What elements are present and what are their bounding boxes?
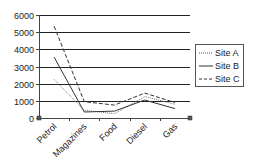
resize-handle-icon[interactable] xyxy=(37,116,41,120)
y-tick-label: 3000 xyxy=(14,63,34,73)
line-chart: 6000500040003000200010000 PetrolMagazine… xyxy=(0,0,255,168)
x-tick-label: Diesel xyxy=(124,121,149,146)
x-tick-label: Gas xyxy=(161,121,180,140)
legend-label: Site B xyxy=(215,61,239,71)
y-tick-label: 0 xyxy=(29,114,34,124)
y-tick-label: 1000 xyxy=(14,97,34,107)
resize-handle-icon[interactable] xyxy=(188,116,192,120)
y-tick-label: 6000 xyxy=(14,11,34,21)
y-tick-label: 5000 xyxy=(14,28,34,38)
y-axis: 6000500040003000200010000 xyxy=(14,11,40,124)
x-tick-label: Petrol xyxy=(35,121,59,145)
x-tick-label: Food xyxy=(97,121,119,143)
y-tick-label: 2000 xyxy=(14,80,34,90)
legend[interactable]: Site A Site B Site C xyxy=(196,45,244,87)
legend-label: Site A xyxy=(215,48,239,58)
series-line-site-c xyxy=(54,26,175,105)
y-tick-label: 4000 xyxy=(14,45,34,55)
data-series xyxy=(54,26,175,114)
x-axis: PetrolMagazinesFoodDieselGas xyxy=(35,116,192,159)
legend-label: Site C xyxy=(215,74,240,84)
gridlines xyxy=(39,16,190,102)
